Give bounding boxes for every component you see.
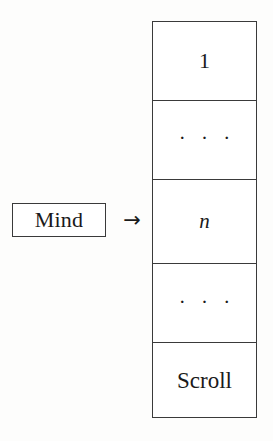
diagram-canvas: Mind → 1 · · · n · · · Scroll: [0, 0, 273, 441]
scroll-cell-5-label: Scroll: [177, 369, 232, 392]
scroll-cell-5: Scroll: [153, 343, 256, 417]
scroll-cell-2-label: · · ·: [174, 128, 235, 149]
scroll-cell-3-label: n: [199, 211, 210, 232]
scroll-cell-1-label: 1: [199, 50, 210, 72]
scroll-cell-4-label: · · ·: [174, 292, 235, 313]
scroll-cell-3: n: [153, 180, 256, 264]
mind-node: Mind: [12, 203, 106, 237]
mind-node-label: Mind: [35, 209, 83, 231]
scroll-stack: 1 · · · n · · · Scroll: [152, 21, 257, 418]
right-arrow-icon: →: [112, 203, 152, 237]
scroll-cell-4: · · ·: [153, 264, 256, 344]
scroll-cell-1: 1: [153, 22, 256, 101]
scroll-cell-2: · · ·: [153, 101, 256, 181]
